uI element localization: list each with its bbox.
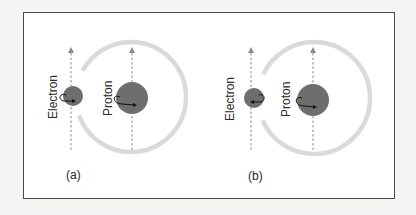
electron-b [244,88,264,108]
electron-label-b: Electron [223,77,237,121]
caption-b: (b) [248,169,263,183]
proton-label-a: Proton [101,81,115,116]
caption-a: (a) [66,168,81,182]
hydrogen-spin-diagram [0,0,416,215]
proton-b [297,84,329,116]
proton-label-b: Proton [279,82,293,117]
electron-label-a: Electron [46,75,60,119]
proton-axis-arrowhead-b [310,47,316,53]
panel-a [60,42,186,152]
proton-a [116,82,148,114]
proton-axis-arrowhead-a [129,47,135,53]
electron-a [63,86,83,106]
panel-b [244,42,370,154]
electron-axis-arrowhead-a [68,47,74,53]
electron-axis-arrowhead-b [248,47,254,53]
